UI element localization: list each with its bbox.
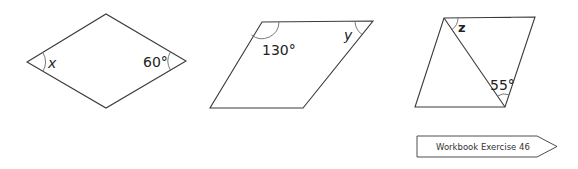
diagonal-line [444, 18, 505, 107]
angle-x-label: x [47, 55, 57, 71]
workbook-exercise-banner[interactable]: Workbook Exercise 46 [417, 136, 557, 157]
banner-label: Workbook Exercise 46 [436, 142, 530, 152]
angle-130-arc [252, 22, 280, 39]
angle-y-arc [355, 21, 362, 35]
angle-y-label: y [343, 27, 353, 43]
angle-130-label: 130° [262, 42, 296, 58]
angle-60-label: 60° [143, 54, 168, 70]
diagram-canvas: x 60° 130° y z 55° Workbook Exercise 46 [0, 0, 578, 169]
angle-60-arc [168, 52, 171, 70]
parallelogram-diagonal-shape [415, 17, 535, 107]
angle-x-arc [43, 52, 46, 71]
angle-z-label: z [458, 20, 466, 35]
angle-55-arc [498, 94, 510, 96]
parallelogram-diagonal-figure: z 55° [415, 17, 535, 107]
rhombus-figure: x 60° [27, 14, 186, 108]
angle-55-label: 55° [490, 77, 515, 93]
parallelogram-figure: 130° y [210, 21, 373, 108]
